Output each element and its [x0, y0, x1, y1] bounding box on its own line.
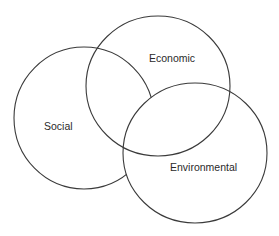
economic-label: Economic — [149, 52, 195, 64]
social-label: Social — [44, 120, 73, 132]
environmental-circle — [123, 83, 267, 223]
environmental-label: Environmental — [170, 161, 237, 173]
venn-diagram: Social Economic Environmental — [0, 0, 279, 236]
